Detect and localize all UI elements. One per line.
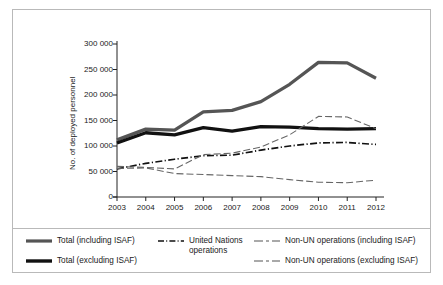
legend-divider bbox=[13, 228, 430, 229]
y-axis-tick-label: 0 bbox=[72, 192, 113, 201]
y-axis-tick-label: 100 000 bbox=[72, 141, 113, 150]
legend-column-2: United Nationsoperations bbox=[158, 234, 248, 256]
y-axis-tick-label: 150 000 bbox=[72, 116, 113, 125]
legend-label-total-excluding-isaf: Total (excluding ISAF) bbox=[57, 254, 137, 266]
figure-container: No. of deployed personnel 300 000250 000… bbox=[0, 0, 443, 285]
series-layer bbox=[117, 62, 376, 182]
series-line-2 bbox=[117, 142, 376, 169]
legend-item-non-un-including-isaf[interactable]: Non-UN operations (including ISAF) bbox=[254, 234, 443, 250]
legend-swatch-long-short-dash-gray-1 bbox=[254, 234, 280, 248]
x-axis-tick-label: 2007 bbox=[218, 203, 246, 212]
y-axis-tick-label: 200 000 bbox=[72, 90, 113, 99]
legend-label-total-including-isaf: Total (including ISAF) bbox=[57, 234, 135, 246]
x-axis-tick-label: 2010 bbox=[304, 203, 332, 212]
legend-column-3: Non-UN operations (including ISAF) Non-U… bbox=[254, 234, 443, 270]
legend-swatch-dash-dot-black bbox=[158, 234, 184, 248]
x-axis-tick-label: 2005 bbox=[161, 203, 189, 212]
legend-swatch-solid-gray-thick bbox=[26, 234, 52, 248]
axis-layer bbox=[113, 41, 384, 201]
legend-swatch-long-short-dash-gray-2 bbox=[254, 254, 280, 268]
series-line-4 bbox=[117, 168, 376, 183]
legend-item-united-nations-operations[interactable]: United Nationsoperations bbox=[158, 234, 248, 256]
y-axis-tick-label: 250 000 bbox=[72, 65, 113, 74]
x-axis-tick-label: 2003 bbox=[103, 203, 131, 212]
x-axis-tick-label: 2012 bbox=[362, 203, 390, 212]
legend-swatch-solid-black-thick bbox=[26, 254, 52, 268]
x-axis-tick-label: 2008 bbox=[247, 203, 275, 212]
legend-label-un-line1: United Nations bbox=[189, 236, 243, 245]
legend-item-total-including-isaf[interactable]: Total (including ISAF) bbox=[26, 234, 154, 250]
y-axis-tick-label: 50 000 bbox=[72, 167, 113, 176]
legend-item-total-excluding-isaf[interactable]: Total (excluding ISAF) bbox=[26, 254, 154, 270]
x-axis-tick-label: 2011 bbox=[333, 203, 361, 212]
x-axis-tick-label: 2006 bbox=[189, 203, 217, 212]
y-axis-tick-label: 300 000 bbox=[72, 39, 113, 48]
legend-label-non-un-including-isaf: Non-UN operations (including ISAF) bbox=[285, 234, 416, 246]
legend-label-non-un-excluding-isaf: Non-UN operations (excluding ISAF) bbox=[285, 254, 418, 266]
legend-label-united-nations-operations: United Nationsoperations bbox=[189, 234, 243, 255]
x-axis-tick-label: 2009 bbox=[276, 203, 304, 212]
legend-item-non-un-excluding-isaf[interactable]: Non-UN operations (excluding ISAF) bbox=[254, 254, 443, 270]
legend-label-un-line2: operations bbox=[189, 246, 227, 255]
legend-column-1: Total (including ISAF) Total (excluding … bbox=[26, 234, 154, 270]
chart-legend: Total (including ISAF) Total (excluding … bbox=[26, 234, 426, 270]
x-axis-tick-label: 2004 bbox=[132, 203, 160, 212]
